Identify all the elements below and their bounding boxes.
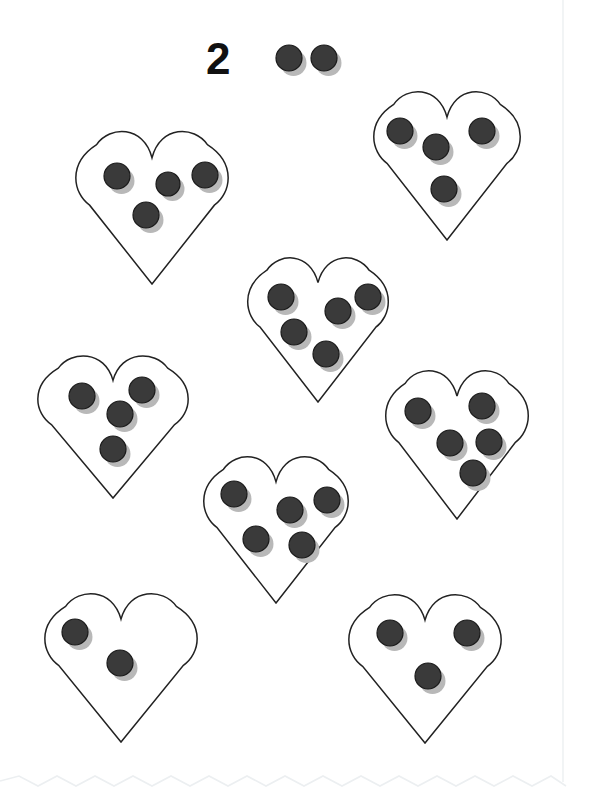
counter-dot-face: [314, 487, 340, 513]
worksheet-page: 2: [0, 0, 590, 796]
counter-dot-face: [133, 202, 159, 228]
counter-dot-face: [377, 620, 403, 646]
counter-dot-face: [325, 298, 351, 324]
counter-dot-face: [289, 532, 315, 558]
counter-dot-face: [268, 284, 294, 310]
worksheet-canvas: 2: [0, 0, 590, 796]
counter-dot-face: [431, 176, 457, 202]
counter-dot-face: [311, 45, 337, 71]
counter-dot-face: [276, 45, 302, 71]
counter-dot-face: [277, 497, 303, 523]
counter-dot-face: [423, 134, 449, 160]
counter-dot-face: [69, 383, 95, 409]
counter-dot-face: [469, 393, 495, 419]
counter-dot-face: [460, 460, 486, 486]
counter-dot-face: [469, 118, 495, 144]
counter-dot-face: [355, 284, 381, 310]
counter-dot-face: [405, 398, 431, 424]
counter-dot-face: [387, 118, 413, 144]
counter-dot-face: [107, 650, 133, 676]
counter-dot-face: [476, 429, 502, 455]
counter-dot-face: [192, 162, 218, 188]
counter-dot-face: [415, 663, 441, 689]
header-numeral: 2: [206, 34, 230, 83]
counter-dot-face: [107, 401, 133, 427]
counter-dot-face: [437, 430, 463, 456]
counter-dot-face: [313, 341, 339, 367]
counter-dot-face: [104, 163, 130, 189]
counter-dot-face: [156, 172, 180, 196]
counter-dot-face: [129, 377, 155, 403]
counter-dot-face: [454, 620, 480, 646]
counter-dot-face: [243, 526, 269, 552]
counter-dot-face: [281, 319, 307, 345]
counter-dot-face: [100, 436, 126, 462]
counter-dot-face: [221, 481, 247, 507]
counter-dot-face: [62, 619, 88, 645]
